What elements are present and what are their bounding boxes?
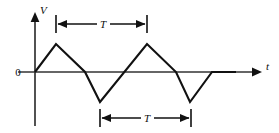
period-dimension-top: T (56, 15, 147, 33)
period-label-top: T (100, 18, 107, 30)
period-bottom-right-arrowhead (180, 114, 190, 122)
time-axis-arrowhead (252, 68, 262, 77)
period-label-bottom: T (144, 112, 151, 124)
waveform-figure: T T V t 0 (0, 0, 279, 133)
origin-label: 0 (15, 66, 21, 78)
waveform-canvas: T T V t 0 (0, 0, 279, 133)
voltage-axis-label: V (40, 4, 48, 16)
period-top-right-arrowhead (136, 20, 146, 28)
period-bottom-left-arrowhead (102, 114, 112, 122)
period-dimension-bottom: T (100, 109, 191, 127)
voltage-axis-arrowhead (31, 12, 40, 22)
time-axis-label: t (266, 60, 270, 72)
triangular-waveform-trace (35, 44, 236, 102)
period-top-left-arrowhead (58, 20, 68, 28)
